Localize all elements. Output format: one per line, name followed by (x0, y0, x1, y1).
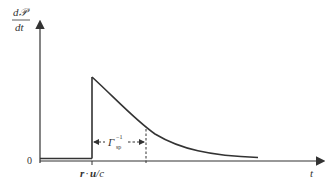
decay-time-label-sub: sp (116, 144, 121, 150)
pulse-decay-diagram: d𝒫 dt 0 t r·u/c Γ −1 sp (0, 0, 330, 190)
y-axis-label-numerator: d𝒫 (13, 6, 30, 18)
decay-time-label: Γ (107, 136, 115, 148)
onset-label: r·u/c (80, 167, 104, 179)
decay-time-label-sup: −1 (116, 134, 122, 140)
origin-label: 0 (27, 155, 32, 166)
x-axis-label: t (310, 167, 314, 179)
y-axis-label-denominator: dt (15, 21, 25, 33)
